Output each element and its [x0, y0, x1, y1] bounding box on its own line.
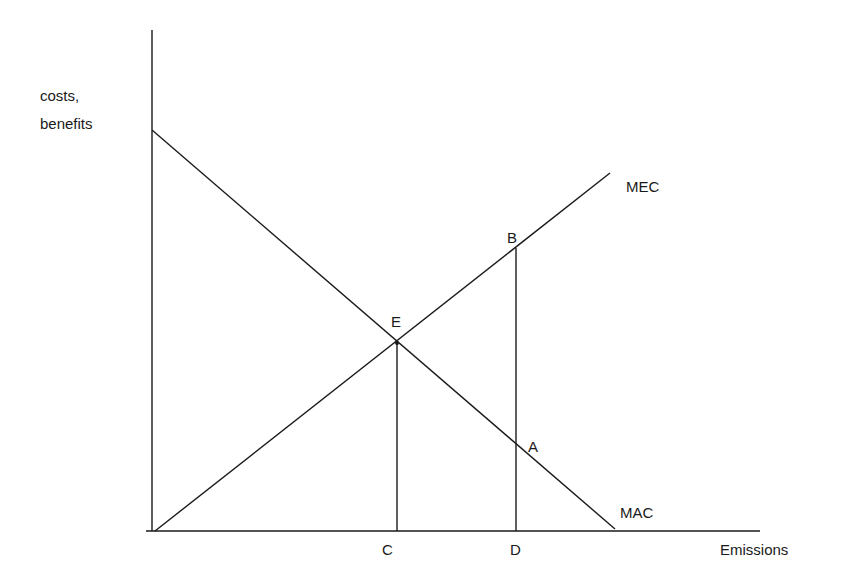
mac-label: MAC — [620, 504, 654, 521]
emissions-diagram: costs, benefits MEC MAC E B A C D Emissi… — [0, 0, 858, 578]
marker-d-label: D — [510, 541, 521, 558]
point-e-label: E — [391, 313, 401, 330]
mac-curve — [152, 130, 615, 529]
y-axis-label-line1: costs, — [40, 87, 79, 104]
point-a-label: A — [528, 438, 538, 455]
y-axis-label-line2: benefits — [40, 115, 93, 132]
marker-c-label: C — [382, 541, 393, 558]
point-b-label: B — [507, 229, 517, 246]
point-e-marker — [395, 341, 399, 345]
mec-curve — [155, 173, 610, 531]
mec-label: MEC — [626, 178, 660, 195]
x-axis-label: Emissions — [720, 541, 788, 558]
